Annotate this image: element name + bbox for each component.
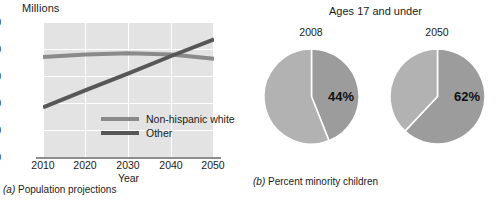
y-tick-0: 0 (0, 157, 1, 169)
y-tick-250: 250 (0, 22, 1, 34)
legend-item-non-hispanic-white: Non-hispanic white (101, 112, 235, 126)
x-tick-2030: 2030 (108, 159, 148, 171)
panel-b-pie-charts: Ages 17 and under 2008 2050 44% 62% (b) … (250, 0, 501, 202)
caption-prefix-b: (b) (253, 176, 265, 187)
caption-panel-b: (b) Percent minority children (253, 176, 378, 187)
y-tick-150: 150 (0, 76, 1, 88)
pies-title: Ages 17 and under (250, 5, 501, 17)
legend-label-other: Other (146, 127, 172, 139)
caption-prefix-a: (a) (3, 184, 15, 195)
x-tick-2020: 2020 (65, 159, 105, 171)
pie-percent-2050: 62% (454, 89, 480, 104)
pie-year-label-2008: 2008 (281, 26, 341, 38)
caption-text-b: Percent minority children (268, 176, 378, 187)
y-axis-title: Millions (22, 2, 59, 14)
legend-label-non-hispanic-white: Non-hispanic white (146, 113, 235, 125)
caption-panel-a: (a) Population projections (3, 184, 116, 195)
pie-year-label-2050: 2050 (407, 26, 467, 38)
x-axis-title: Year (43, 172, 214, 184)
legend-item-other: Other (101, 126, 235, 140)
y-tick-100: 100 (0, 103, 1, 115)
caption-text-a: Population projections (18, 184, 116, 195)
legend: Non-hispanic white Other (101, 112, 235, 140)
x-tick-2050: 2050 (193, 159, 233, 171)
legend-swatch-non-hispanic-white (101, 117, 139, 121)
legend-swatch-other (101, 131, 139, 135)
x-tick-2040: 2040 (151, 159, 191, 171)
figure-population-projections: Millions 250 200 150 100 50 0 2010 2020 … (0, 0, 501, 202)
x-tick-2010: 2010 (23, 159, 63, 171)
panel-a-line-chart: Millions 250 200 150 100 50 0 2010 2020 … (0, 0, 250, 202)
pie-percent-2008: 44% (328, 89, 354, 104)
y-tick-50: 50 (0, 130, 1, 142)
y-tick-200: 200 (0, 49, 1, 61)
